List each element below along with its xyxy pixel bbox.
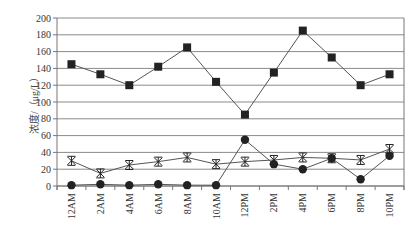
y-axis-label: 浓度/（μg/L） — [28, 72, 40, 134]
y-tick-label: 40 — [41, 147, 51, 158]
square-marker — [67, 60, 75, 68]
y-tick-label: 180 — [36, 29, 51, 40]
star-series — [67, 145, 393, 178]
x-tick-label: 8AM — [182, 193, 193, 214]
x-tick-label: 8PM — [355, 193, 366, 213]
square-marker — [357, 81, 365, 89]
y-tick-label: 20 — [41, 164, 51, 175]
x-tick-label: 4PM — [297, 193, 308, 213]
square-marker — [96, 70, 104, 78]
x-tick-label: 6AM — [153, 193, 164, 214]
x-tick-label: 12PM — [239, 193, 250, 218]
y-tick-label: 60 — [41, 130, 51, 141]
square-marker — [183, 43, 191, 51]
x-tick-label: 4AM — [124, 193, 135, 214]
circle-marker — [270, 160, 278, 168]
x-tick-label: 10PM — [384, 193, 395, 218]
square-marker — [212, 78, 220, 86]
circle-marker — [299, 165, 307, 173]
y-tick-label: 200 — [36, 13, 51, 24]
circle-marker — [212, 181, 220, 189]
square-marker — [241, 111, 249, 119]
square-series — [67, 27, 393, 119]
circle-series — [67, 136, 393, 190]
x-tick-label: 2AM — [95, 193, 106, 214]
circle-marker — [328, 154, 336, 162]
x-tick-label: 10AM — [211, 193, 222, 219]
x-tick-label: 12AM — [66, 193, 77, 219]
x-tick-label: 2PM — [268, 193, 279, 213]
square-marker — [386, 70, 394, 78]
circle-marker — [356, 175, 364, 183]
circle-marker — [154, 180, 162, 188]
circle-marker — [385, 152, 393, 160]
x-axis-ticks: 12AM2AM4AM6AM8AM10AM12PM2PM4PM6PM8PM10PM — [57, 186, 404, 219]
x-tick-label: 6PM — [326, 193, 337, 213]
square-marker — [154, 63, 162, 71]
circle-marker — [96, 180, 104, 188]
star-marker — [67, 156, 75, 165]
square-marker — [299, 27, 307, 35]
data-series — [67, 27, 393, 190]
square-marker — [328, 53, 336, 61]
gridlines — [53, 18, 404, 190]
square-marker — [270, 69, 278, 77]
circle-marker — [67, 181, 75, 189]
y-tick-label: 80 — [41, 113, 51, 124]
line-chart: 020406080100120140160180200 12AM2AM4AM6A… — [0, 0, 416, 225]
circle-marker — [241, 136, 249, 144]
circle-marker — [125, 181, 133, 189]
y-tick-label: 0 — [46, 181, 51, 192]
star-marker — [96, 169, 104, 178]
y-tick-label: 160 — [36, 46, 51, 57]
circle-marker — [183, 181, 191, 189]
square-marker — [125, 81, 133, 89]
